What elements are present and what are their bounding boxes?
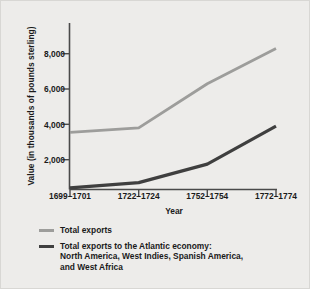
x-tick-label-1699-1701: 1699–1701 xyxy=(33,191,107,201)
chart-legend: Total exports Total exports to the Atlan… xyxy=(39,225,305,277)
x-axis-title: Year xyxy=(71,206,277,216)
legend-swatch-light-icon xyxy=(39,229,54,232)
y-tick-label-2000: 2,000 xyxy=(29,155,65,165)
legend-label-total-exports-line1: Total exports xyxy=(60,225,112,235)
legend-label-total-exports: Total exports xyxy=(60,225,112,236)
legend-label-atlantic-economy-line1: Total exports to the Atlantic economy: xyxy=(60,241,212,251)
x-tick-label-1752-1754: 1752–1754 xyxy=(170,191,244,201)
legend-label-atlantic-economy-line2: North America, West Indies, Spanish Amer… xyxy=(60,251,243,262)
legend-label-atlantic-economy-line3: and West Africa xyxy=(60,262,243,273)
series-line-atlantic-economy xyxy=(70,126,276,188)
y-tick-label-4000: 4,000 xyxy=(29,120,65,130)
series-line-total-exports xyxy=(70,48,276,132)
chart-figure: Value (in thousands of pounds sterling) … xyxy=(0,0,310,289)
legend-label-atlantic-economy: Total exports to the Atlantic economy: N… xyxy=(60,241,243,273)
y-tick-label-8000: 8,000 xyxy=(29,49,65,59)
plot-area: Value (in thousands of pounds sterling) … xyxy=(1,1,310,201)
legend-swatch-dark-icon xyxy=(39,245,54,248)
y-tick-label-6000: 6,000 xyxy=(29,84,65,94)
legend-item-atlantic-economy: Total exports to the Atlantic economy: N… xyxy=(39,241,305,273)
x-tick-label-1772-1774: 1772–1774 xyxy=(239,191,310,201)
legend-item-total-exports: Total exports xyxy=(39,225,305,236)
x-tick-label-1722-1724: 1722–1724 xyxy=(102,191,176,201)
y-tick-label-group: 8,000 6,000 4,000 2,000 xyxy=(27,1,65,201)
x-tick-label-group: 1699–1701 1722–1724 1752–1754 1772–1774 xyxy=(1,191,310,207)
